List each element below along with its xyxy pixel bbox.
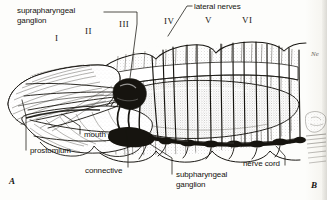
segment-numeral-1: I [55,33,58,43]
segment-numeral-3: III [119,19,129,29]
label-mouth: mouth [84,130,106,140]
panel-label-b: B [311,180,317,190]
segment-numeral-5: V [205,15,212,25]
label-subpharyngeal-ganglion-line2: ganglion [176,180,205,189]
segment-numeral-6: VI [242,15,252,25]
label-nerve-cord: nerve cord [243,159,280,169]
label-connective: connective [85,166,122,176]
label-suprapharyngeal-ganglion-line2: ganglion [17,16,46,25]
figure-page: suprapharyngeal ganglion lateral nerves … [0,0,327,200]
adjacent-figure-caption-fragment: Ne [311,50,319,58]
segment-numeral-2: II [85,26,92,36]
label-lateral-nerves: lateral nerves [194,2,241,12]
segment-numeral-4: IV [164,16,174,26]
suprapharyngeal-ganglion-structure [113,79,146,110]
label-suprapharyngeal-ganglion: suprapharyngeal ganglion [17,6,91,25]
earthworm-nervous-system-illustration [0,0,327,200]
panel-label-a: A [9,176,15,186]
label-subpharyngeal-ganglion: subpharyngeal ganglion [176,170,246,189]
adjacent-figure-b-bleed [305,108,327,178]
label-suprapharyngeal-ganglion-line1: suprapharyngeal [17,6,75,15]
label-subpharyngeal-ganglion-line1: subpharyngeal [176,170,227,179]
label-prostomium: prostomium [30,146,71,156]
